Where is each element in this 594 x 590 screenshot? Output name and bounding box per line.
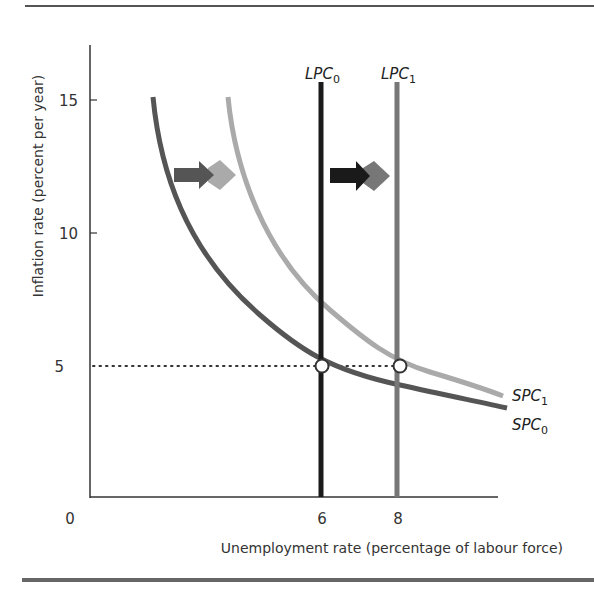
- spc-shift-arrow-icon: [174, 160, 236, 190]
- x-axis-title: Unemployment rate (percentage of labour …: [221, 540, 563, 556]
- x-tick-label-8: 8: [393, 510, 403, 528]
- y-tick-label-10: 10: [59, 225, 78, 243]
- y-tick-label-15: 15: [59, 92, 78, 110]
- lpc0-label: LPC0: [305, 65, 340, 86]
- x-tick-label-6: 6: [317, 510, 327, 528]
- y-tick-label-5: 5: [54, 358, 64, 376]
- spc0-curve: [153, 97, 507, 408]
- equilibrium-point-1: [394, 360, 407, 373]
- lpc-shift-arrow-icon: [330, 161, 390, 191]
- lpc1-label: LPC1: [381, 65, 416, 86]
- x-tick-label-0: 0: [65, 510, 75, 528]
- spc0-label: SPC0: [512, 416, 548, 437]
- spc1-label: SPC1: [512, 387, 548, 408]
- y-axis-title: Inflation rate (percent per year): [30, 75, 46, 298]
- spc1-curve: [228, 97, 503, 396]
- equilibrium-point-0: [316, 360, 329, 373]
- phillips-curve-chart: 15 10 5 0 6 8 Unemployment rate (percent…: [0, 0, 594, 590]
